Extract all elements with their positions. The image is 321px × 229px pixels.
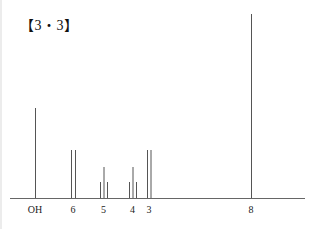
peak-group-4 [130, 167, 137, 198]
tick-label: 6 [71, 204, 76, 215]
peak-group-6 [72, 150, 76, 198]
peak-group-5 [101, 167, 108, 198]
tick-label: OH [28, 204, 42, 215]
tick-label: 3 [147, 204, 152, 215]
peak-group-3 [148, 150, 152, 198]
tick-label: 4 [130, 204, 135, 215]
tick-label: 8 [249, 204, 254, 215]
tick-label: 5 [101, 204, 106, 215]
nmr-spectrum-plot: OH65438 [0, 0, 321, 229]
